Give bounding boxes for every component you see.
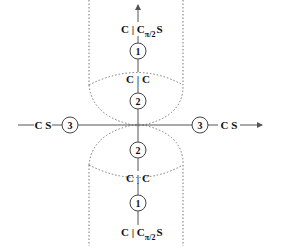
node-bottom-1-label: 1 — [136, 198, 141, 209]
left-label: C S — [35, 119, 52, 131]
symmetry-diagram: 1 2 2 1 3 3 C | Cπ/2S C | C C | C C | Cπ… — [0, 0, 281, 252]
bottom-outer-label-suffix: S — [156, 226, 162, 238]
top-outer-label-main: C | C — [121, 23, 145, 35]
bottom-outer-label-main: C | C — [121, 226, 145, 238]
node-top-1-label: 1 — [136, 46, 141, 57]
bottom-inner-label: C | C — [126, 172, 150, 184]
top-outer-label-sub: π/2 — [145, 30, 156, 39]
node-left-3-label: 3 — [68, 120, 73, 131]
top-outer-label: C | Cπ/2S — [121, 23, 163, 39]
top-outer-label-suffix: S — [156, 23, 162, 35]
bottom-outer-label-sub: π/2 — [145, 233, 156, 242]
bottom-outer-label: C | Cπ/2S — [121, 226, 163, 242]
top-inner-label: C | C — [126, 73, 150, 85]
node-top-2-label: 2 — [136, 96, 141, 107]
node-right-3-label: 3 — [198, 120, 203, 131]
solid-lines — [18, 5, 262, 225]
right-label: C S — [221, 119, 238, 131]
nodes — [62, 43, 208, 211]
node-bottom-2-label: 2 — [136, 145, 141, 156]
